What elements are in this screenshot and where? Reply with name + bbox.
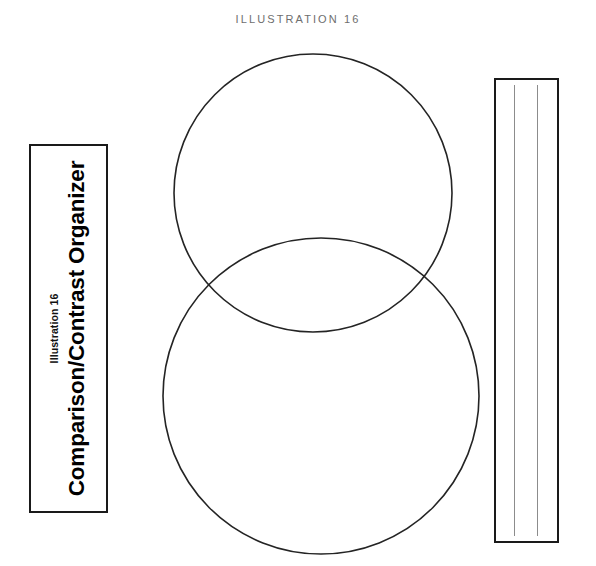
venn-circle-top[interactable] <box>174 54 452 332</box>
strip-divider-line-2 <box>537 85 538 536</box>
venn-circle-bottom[interactable] <box>163 238 479 554</box>
notes-strip[interactable] <box>494 78 559 543</box>
worksheet-page: ILLUSTRATION 16 Illustration 16 Comparis… <box>0 0 596 566</box>
strip-divider-line-1 <box>514 85 515 536</box>
